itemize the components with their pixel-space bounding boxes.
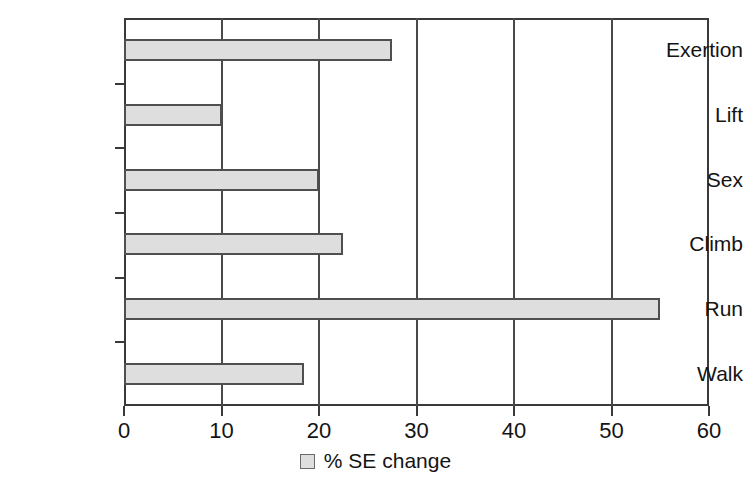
x-axis-tick-label: 10 bbox=[192, 418, 252, 444]
bar-row bbox=[124, 39, 709, 61]
x-axis-tick bbox=[221, 406, 223, 416]
x-axis-tick-label: 60 bbox=[679, 418, 739, 444]
bar-sex bbox=[124, 169, 319, 191]
y-axis-label-exertion: Exertion bbox=[635, 39, 751, 61]
y-axis-label-climb: Climb bbox=[635, 233, 751, 255]
x-axis-tick bbox=[123, 406, 125, 416]
gridline bbox=[221, 18, 223, 406]
x-axis-tick bbox=[416, 406, 418, 416]
x-axis-tick bbox=[513, 406, 515, 416]
bar-exertion bbox=[124, 39, 392, 61]
x-axis-tick bbox=[708, 406, 710, 416]
bar-row bbox=[124, 104, 709, 126]
bar-run bbox=[124, 298, 660, 320]
y-axis-tick bbox=[115, 277, 124, 279]
y-axis-tick bbox=[115, 83, 124, 85]
y-axis-label-lift: Lift bbox=[635, 104, 751, 126]
y-axis-label-walk: Walk bbox=[635, 363, 751, 385]
bar-walk bbox=[124, 363, 304, 385]
bar-row bbox=[124, 233, 709, 255]
gridline bbox=[318, 18, 320, 406]
legend-label: % SE change bbox=[324, 450, 451, 472]
x-axis-tick-label: 40 bbox=[484, 418, 544, 444]
x-axis-tick-label: 30 bbox=[387, 418, 447, 444]
chart-legend: % SE change bbox=[0, 450, 751, 472]
legend-swatch-icon bbox=[300, 454, 315, 469]
bar-row bbox=[124, 363, 709, 385]
x-axis-tick bbox=[611, 406, 613, 416]
bar-climb bbox=[124, 233, 343, 255]
gridline bbox=[416, 18, 418, 406]
bar-lift bbox=[124, 104, 222, 126]
bar-row bbox=[124, 298, 709, 320]
y-axis-label-run: Run bbox=[635, 298, 751, 320]
x-axis-tick-label: 20 bbox=[289, 418, 349, 444]
x-axis-tick-label: 50 bbox=[582, 418, 642, 444]
gridline bbox=[611, 18, 613, 406]
y-axis-tick bbox=[115, 147, 124, 149]
x-axis-tick-label: 0 bbox=[94, 418, 154, 444]
y-axis-tick bbox=[115, 341, 124, 343]
y-axis-tick bbox=[115, 212, 124, 214]
x-axis-tick bbox=[318, 406, 320, 416]
bar-row bbox=[124, 169, 709, 191]
y-axis-label-sex: Sex bbox=[635, 169, 751, 191]
gridline bbox=[513, 18, 515, 406]
bar-chart: ExertionLiftSexClimbRunWalk 010203040506… bbox=[0, 0, 751, 487]
